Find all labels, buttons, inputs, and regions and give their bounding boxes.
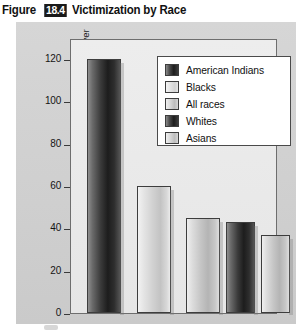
- legend-swatch-all-races: [165, 98, 179, 110]
- bar-american-indians: [87, 59, 121, 313]
- bar-blacks: [137, 186, 171, 313]
- legend-item-asians: Asians: [165, 130, 290, 146]
- legend-item-american-indians: American Indians: [165, 62, 290, 78]
- y-tick-mark-0: [64, 314, 70, 315]
- y-tick-label-80: 80: [50, 138, 61, 149]
- y-tick-80: 80: [16, 145, 70, 146]
- legend-label-american-indians: American Indians: [186, 65, 264, 76]
- y-tick-120: 120: [16, 60, 70, 61]
- legend-item-blacks: Blacks: [165, 79, 290, 95]
- chart-panel: Victims of violence per 1,000 people age…: [16, 22, 296, 324]
- figure-title: Figure 18.4 Victimization by Race: [2, 1, 196, 19]
- legend-label-all-races: All races: [186, 99, 225, 110]
- plot-area: American Indians Blacks All races Whites…: [70, 39, 277, 314]
- bar-all-races: [186, 218, 220, 313]
- y-tick-label-0: 0: [56, 307, 61, 318]
- legend-swatch-american-indians: [165, 64, 179, 76]
- y-tick-label-60: 60: [50, 180, 61, 191]
- scan-artifact: [44, 325, 58, 330]
- legend-item-whites: Whites: [165, 113, 290, 129]
- bar-asians: [261, 235, 290, 313]
- y-tick-60: 60: [16, 187, 70, 188]
- y-tick-label-100: 100: [45, 95, 61, 106]
- y-tick-40: 40: [16, 229, 70, 230]
- chart-legend: American Indians Blacks All races Whites…: [157, 56, 291, 146]
- bar-whites: [226, 222, 255, 313]
- page-title: Victimization by Race: [72, 3, 186, 17]
- y-tick-100: 100: [16, 102, 70, 103]
- legend-swatch-blacks: [165, 81, 179, 93]
- figure-label: Figure: [2, 3, 36, 17]
- y-tick-label-40: 40: [50, 222, 61, 233]
- y-tick-20: 20: [16, 272, 70, 273]
- legend-label-asians: Asians: [186, 133, 216, 144]
- y-tick-label-20: 20: [50, 265, 61, 276]
- legend-item-all-races: All races: [165, 96, 290, 112]
- y-tick-0: 0: [16, 314, 70, 315]
- legend-swatch-asians: [165, 132, 179, 144]
- legend-label-blacks: Blacks: [186, 82, 216, 93]
- legend-label-whites: Whites: [186, 116, 217, 127]
- y-tick-label-120: 120: [45, 53, 61, 64]
- legend-swatch-whites: [165, 115, 179, 127]
- figure-number-badge: 18.4: [44, 4, 66, 17]
